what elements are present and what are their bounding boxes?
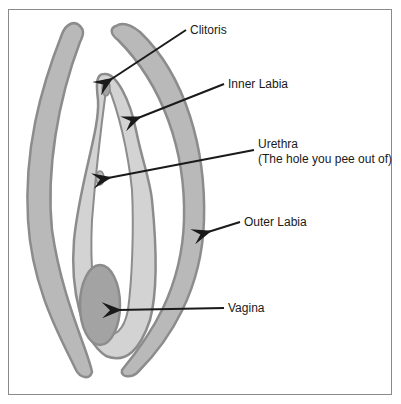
anatomy-diagram	[0, 0, 401, 404]
label-urethra: Urethra	[258, 137, 298, 151]
label-inner-labia: Inner Labia	[228, 77, 288, 91]
label-vagina: Vagina	[228, 301, 264, 315]
vagina-shape	[80, 265, 120, 345]
label-urethra-note: (The hole you pee out of)	[258, 152, 392, 166]
label-outer-labia: Outer Labia	[244, 215, 307, 229]
urethra-shape	[96, 171, 104, 185]
outer-labia-arrow	[208, 222, 240, 232]
label-clitoris: Clitoris	[190, 23, 227, 37]
clitoris-shape	[102, 80, 110, 96]
